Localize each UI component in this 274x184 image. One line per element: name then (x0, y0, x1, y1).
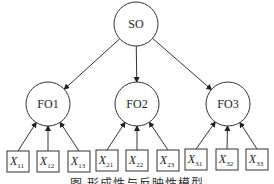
indicator-x32: X32 (216, 149, 238, 170)
indicator-x12: X12 (37, 151, 59, 172)
figure-caption: 图 形成性与反映性模型 (0, 176, 274, 184)
node-fo1: FO1 (26, 82, 70, 126)
edge-so-to-fo1 (64, 39, 119, 89)
diagram: SOFO1X11X12X13FO2X21X22X23FO3X31X32X33 图… (0, 0, 274, 184)
edge-x23-to-fo2 (149, 122, 168, 150)
edge-x11-to-fo1 (18, 123, 36, 151)
node-fo3-label: FO3 (217, 97, 238, 111)
indicator-x21: X21 (96, 150, 118, 171)
edge-x21-to-fo2 (107, 122, 125, 150)
node-fo2-label: FO2 (126, 97, 147, 111)
diagram-canvas: SOFO1X11X12X13FO2X21X22X23FO3X31X32X33 (0, 0, 274, 184)
edge-x32-to-fo3 (227, 126, 228, 149)
edge-x13-to-fo1 (60, 122, 79, 151)
node-so-label: SO (128, 17, 144, 31)
edge-x33-to-fo3 (240, 122, 257, 149)
indicator-x13: X13 (68, 151, 90, 172)
indicator-x33: X33 (246, 149, 268, 170)
indicator-x31: X31 (185, 149, 207, 170)
edge-so-to-fo3 (153, 38, 212, 89)
node-so: SO (114, 2, 158, 46)
indicator-x22: X22 (126, 150, 148, 171)
node-fo3: FO3 (206, 82, 250, 126)
node-fo2: FO2 (115, 82, 159, 126)
indicator-x23: X23 (157, 150, 179, 171)
edge-x31-to-fo3 (196, 122, 215, 149)
node-fo1-label: FO1 (37, 97, 58, 111)
indicator-x11: X11 (7, 151, 29, 172)
